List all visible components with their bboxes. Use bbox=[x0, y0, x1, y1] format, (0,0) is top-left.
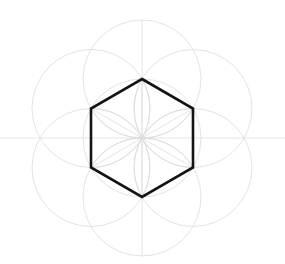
construction-canvas bbox=[0, 0, 285, 264]
geometric-construction-figure bbox=[0, 0, 285, 264]
